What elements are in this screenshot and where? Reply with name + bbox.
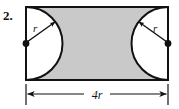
- center-dot-right: [165, 40, 172, 47]
- width-dimension-label: 4r: [92, 88, 103, 102]
- geometry-figure-svg: 2. r r 4r: [0, 0, 179, 109]
- problem-number: 2.: [3, 8, 13, 23]
- radius-label-left: r: [33, 22, 38, 34]
- geometry-figure-container: 2. r r 4r: [0, 0, 179, 109]
- center-dot-left: [23, 40, 30, 47]
- radius-label-right: r: [153, 22, 158, 34]
